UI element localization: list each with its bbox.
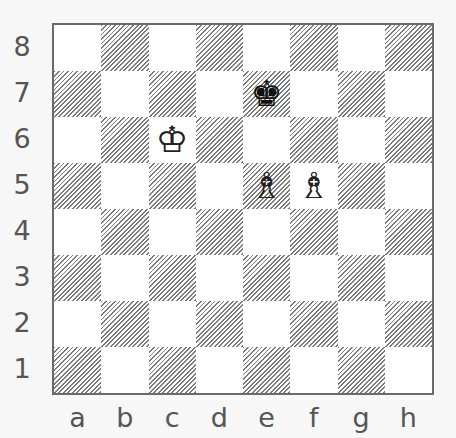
square-h8	[385, 25, 432, 71]
square-b5	[101, 163, 148, 209]
square-f2	[290, 301, 337, 347]
square-e1	[243, 347, 290, 393]
square-d3	[196, 255, 243, 301]
square-d8	[196, 25, 243, 71]
file-label-c: c	[149, 402, 196, 433]
square-a4	[54, 209, 101, 255]
file-label-h: h	[385, 402, 432, 433]
square-d1	[196, 347, 243, 393]
rank-label-4: 4	[8, 215, 36, 246]
square-g6	[338, 117, 385, 163]
square-b6	[101, 117, 148, 163]
square-h6	[385, 117, 432, 163]
square-f1	[290, 347, 337, 393]
square-g3	[338, 255, 385, 301]
square-h7	[385, 71, 432, 117]
square-e7: ♚	[243, 71, 290, 117]
square-h1	[385, 347, 432, 393]
square-c1	[149, 347, 196, 393]
square-f6	[290, 117, 337, 163]
square-f4	[290, 209, 337, 255]
square-c3	[149, 255, 196, 301]
square-a5	[54, 163, 101, 209]
square-a3	[54, 255, 101, 301]
square-e2	[243, 301, 290, 347]
file-label-f: f	[290, 402, 337, 433]
square-b4	[101, 209, 148, 255]
square-d5	[196, 163, 243, 209]
square-e3	[243, 255, 290, 301]
square-b2	[101, 301, 148, 347]
rank-label-3: 3	[8, 261, 36, 292]
square-f5: ♗	[290, 163, 337, 209]
square-d2	[196, 301, 243, 347]
square-b7	[101, 71, 148, 117]
square-g5	[338, 163, 385, 209]
white-bishop-icon: ♗	[298, 168, 330, 204]
square-g1	[338, 347, 385, 393]
square-f7	[290, 71, 337, 117]
rank-label-8: 8	[8, 31, 36, 62]
square-f3	[290, 255, 337, 301]
square-d4	[196, 209, 243, 255]
file-label-d: d	[196, 402, 243, 433]
rank-label-6: 6	[8, 123, 36, 154]
square-e4	[243, 209, 290, 255]
square-g4	[338, 209, 385, 255]
square-a2	[54, 301, 101, 347]
square-e5: ♗	[243, 163, 290, 209]
square-h4	[385, 209, 432, 255]
file-label-g: g	[338, 402, 385, 433]
square-e6	[243, 117, 290, 163]
white-bishop-icon: ♗	[250, 168, 282, 204]
square-c4	[149, 209, 196, 255]
square-h2	[385, 301, 432, 347]
square-c5	[149, 163, 196, 209]
file-label-a: a	[54, 402, 101, 433]
square-b3	[101, 255, 148, 301]
rank-label-7: 7	[8, 77, 36, 108]
square-a7	[54, 71, 101, 117]
square-c2	[149, 301, 196, 347]
black-king-icon: ♚	[250, 76, 282, 112]
square-c7	[149, 71, 196, 117]
square-d7	[196, 71, 243, 117]
square-e8	[243, 25, 290, 71]
file-label-e: e	[243, 402, 290, 433]
rank-label-2: 2	[8, 307, 36, 338]
rank-label-5: 5	[8, 169, 36, 200]
square-h3	[385, 255, 432, 301]
square-c8	[149, 25, 196, 71]
square-d6	[196, 117, 243, 163]
square-g8	[338, 25, 385, 71]
white-king-icon: ♔	[156, 122, 188, 158]
square-a1	[54, 347, 101, 393]
square-b8	[101, 25, 148, 71]
chess-board: ♚♔♗♗	[52, 23, 434, 395]
rank-label-1: 1	[8, 353, 36, 384]
square-a6	[54, 117, 101, 163]
square-g2	[338, 301, 385, 347]
square-f8	[290, 25, 337, 71]
square-b1	[101, 347, 148, 393]
square-g7	[338, 71, 385, 117]
square-c6: ♔	[149, 117, 196, 163]
file-label-b: b	[101, 402, 148, 433]
square-a8	[54, 25, 101, 71]
square-h5	[385, 163, 432, 209]
